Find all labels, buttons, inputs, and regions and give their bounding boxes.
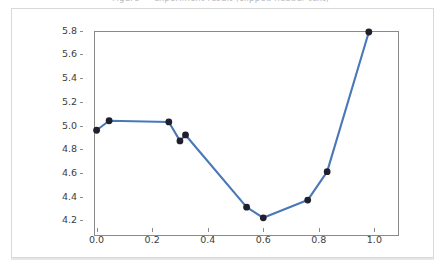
x-tick-mark	[374, 228, 375, 232]
x-tick-label: 0.6	[243, 234, 283, 245]
y-tick-label: 4.6	[39, 167, 77, 178]
data-point	[324, 168, 331, 175]
y-tick-label: 5.4	[39, 72, 77, 83]
data-point	[243, 204, 250, 211]
y-tick-mark	[80, 197, 84, 198]
y-tick-label: 5.8	[39, 25, 77, 36]
y-tick-label: 4.2	[39, 214, 77, 225]
y-tick-label: 5.2	[39, 96, 77, 107]
x-tick-mark	[319, 228, 320, 232]
data-line	[97, 32, 369, 218]
clipped-caption-strip: Figure — experiment result (clipped head…	[0, 0, 445, 6]
x-tick-label: 0.0	[77, 234, 117, 245]
x-tick-label: 0.8	[299, 234, 339, 245]
y-tick-mark	[80, 54, 84, 55]
data-point	[365, 29, 372, 36]
x-tick-label: 1.0	[354, 234, 394, 245]
figure-card: 4.24.44.64.85.05.25.45.65.8 0.00.20.40.6…	[11, 8, 434, 258]
data-point	[93, 127, 100, 134]
y-tick-mark	[80, 220, 84, 221]
clipped-caption-text: Figure — experiment result (clipped head…	[112, 0, 329, 3]
y-tick-mark	[80, 102, 84, 103]
y-tick-mark	[80, 149, 84, 150]
data-point	[182, 132, 189, 139]
y-tick-label: 4.8	[39, 143, 77, 154]
x-tick-mark	[263, 228, 264, 232]
y-tick-label: 5.6	[39, 48, 77, 59]
data-point	[260, 214, 267, 221]
data-point	[177, 137, 184, 144]
x-tick-label: 0.2	[132, 234, 172, 245]
x-tick-mark	[152, 228, 153, 232]
y-tick-mark	[80, 126, 84, 127]
data-point	[106, 117, 113, 124]
y-tick-mark	[80, 78, 84, 79]
chart-screenshot: Figure — experiment result (clipped head…	[0, 0, 445, 275]
x-tick-mark	[97, 228, 98, 232]
y-tick-label: 4.4	[39, 191, 77, 202]
y-tick-mark	[80, 173, 84, 174]
y-tick-label: 5.0	[39, 120, 77, 131]
card-bottom-shadow	[11, 258, 434, 260]
x-tick-label: 0.4	[188, 234, 228, 245]
y-tick-mark	[80, 31, 84, 32]
data-point	[304, 197, 311, 204]
data-point	[165, 119, 172, 126]
x-tick-mark	[208, 228, 209, 232]
